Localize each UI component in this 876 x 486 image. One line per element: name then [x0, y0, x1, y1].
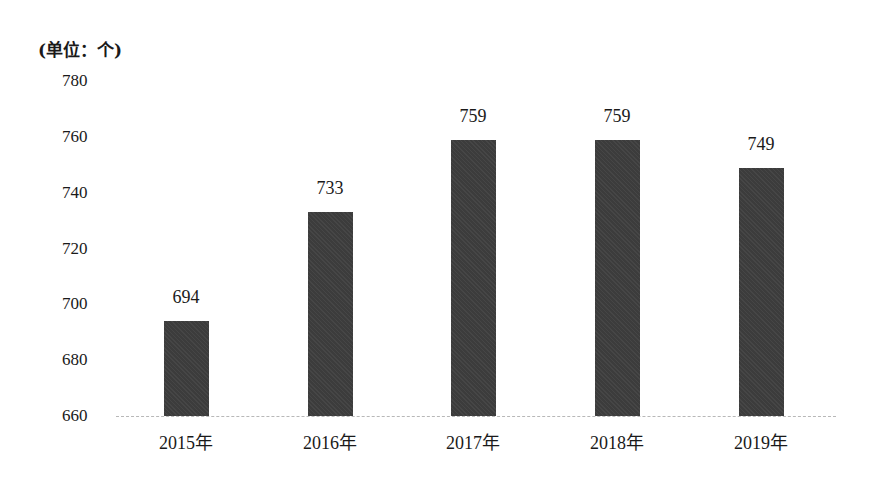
x-tick-label: 2019年 [711, 428, 811, 454]
x-tick-label: 2017年 [423, 428, 523, 454]
y-tick-label: 720 [62, 239, 112, 259]
x-axis-baseline [116, 416, 836, 417]
y-tick-label: 680 [62, 350, 112, 370]
x-tick-label: 2016年 [280, 428, 380, 454]
x-tick-label: 2015年 [136, 428, 236, 454]
y-tick-label: 760 [62, 127, 112, 147]
data-label: 749 [721, 134, 801, 155]
y-tick-label: 740 [62, 183, 112, 203]
bar [595, 140, 640, 416]
x-tick-label: 2018年 [567, 428, 667, 454]
data-label: 759 [577, 106, 657, 127]
bar [739, 168, 784, 416]
bar [451, 140, 496, 416]
data-label: 733 [290, 178, 370, 199]
bar [164, 321, 209, 416]
y-tick-label: 660 [62, 406, 112, 426]
data-label: 694 [146, 287, 226, 308]
y-tick-label: 780 [62, 71, 112, 91]
unit-label: (单位：个) [38, 36, 122, 61]
data-label: 759 [433, 106, 513, 127]
y-tick-label: 700 [62, 294, 112, 314]
bar [308, 212, 353, 416]
